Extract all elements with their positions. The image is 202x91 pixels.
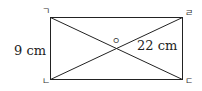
- diagonal-measurement: 22 cm: [137, 38, 177, 53]
- vertex-label-top-right: ㄹ: [185, 8, 193, 18]
- vertex-label-top-left: ㄱ: [42, 6, 50, 16]
- vertex-label-bottom-left: ㄴ: [42, 76, 50, 86]
- vertex-label-bottom-right: ㄷ: [185, 76, 193, 86]
- height-measurement: 9 cm: [14, 43, 46, 58]
- rectangle-diagram: ㄱ ㄹ ㄴ ㄷ ㅇ 9 cm 22 cm: [0, 0, 202, 91]
- center-label: ㅇ: [112, 36, 120, 46]
